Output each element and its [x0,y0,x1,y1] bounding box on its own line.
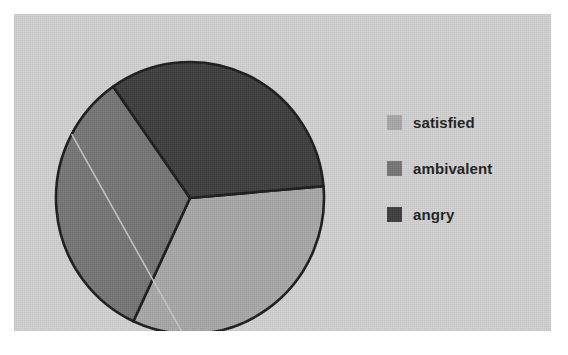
legend-item-angry[interactable]: angry [387,206,551,222]
chart-panel: satisfied ambivalent angry [14,14,551,331]
legend-label-satisfied: satisfied [413,115,475,130]
pie-chart-figure: satisfied ambivalent angry [0,0,568,355]
legend-label-ambivalent: ambivalent [413,161,492,176]
legend-swatch-satisfied [387,115,402,130]
legend-swatch-ambivalent [387,161,402,176]
legend-swatch-angry [387,207,402,222]
pie-svg [28,34,358,331]
legend-label-angry: angry [413,207,454,222]
legend-item-ambivalent[interactable]: ambivalent [387,160,551,176]
pie-plot-area [28,34,358,331]
legend-item-satisfied[interactable]: satisfied [387,114,551,130]
chart-legend: satisfied ambivalent angry [387,114,551,222]
